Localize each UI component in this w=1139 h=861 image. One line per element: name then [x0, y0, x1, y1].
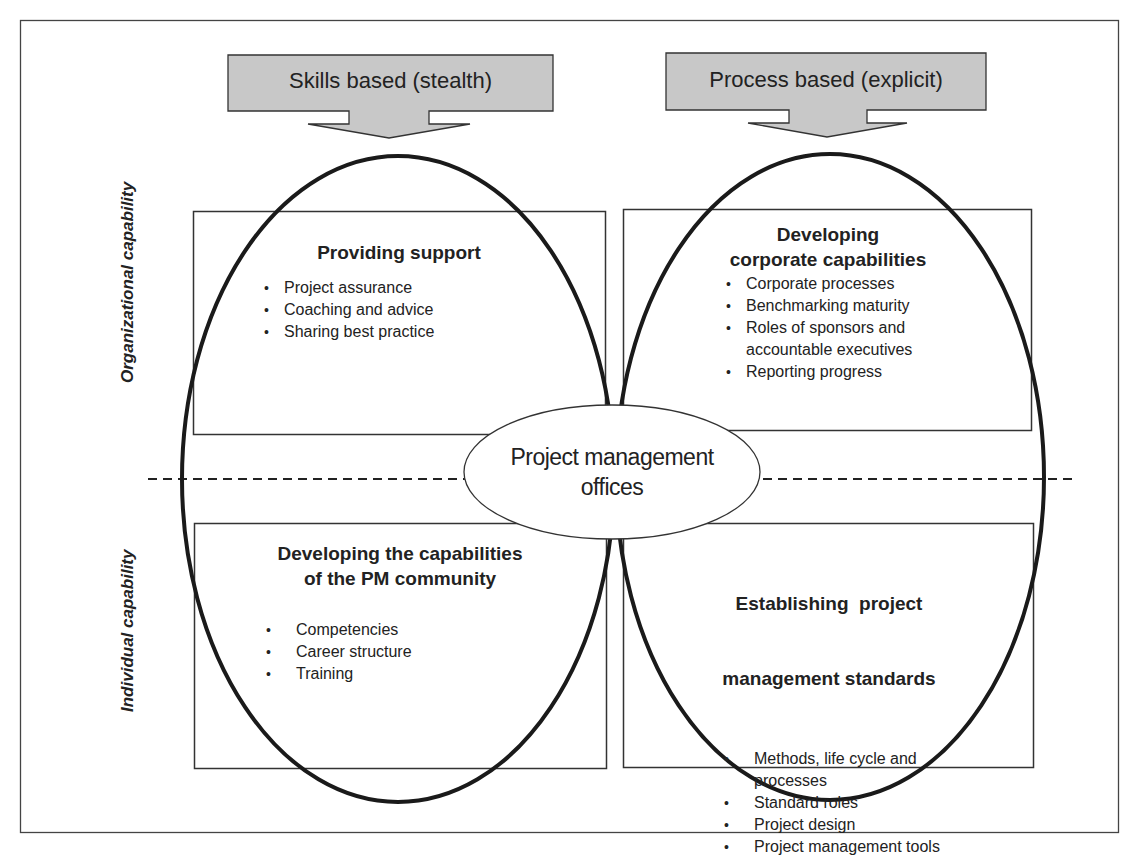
list-item: Sharing best practice	[262, 321, 604, 343]
individual-capability-label: Individual capability	[118, 550, 138, 712]
list-item: Coaching and advice	[262, 299, 604, 321]
quadrant-items: Corporate processes Benchmarking maturit…	[724, 273, 974, 383]
list-item: Project assurance	[262, 277, 604, 299]
quadrant-title-line: corporate capabilities	[624, 247, 1032, 272]
quadrant-title: Establishing project management standard…	[624, 541, 1034, 741]
quadrant-title-line: Developing	[624, 222, 1032, 247]
quadrant-corporate-capabilities: Developing corporate capabilities Corpor…	[624, 222, 1032, 383]
process-arrow-shape	[666, 53, 986, 137]
list-item: Competencies	[262, 619, 606, 641]
list-item: Project management tools	[720, 836, 965, 858]
list-item: Methods, life cycle and processes	[720, 748, 965, 792]
skills-based-label: Skills based (stealth)	[228, 68, 553, 94]
quadrant-title: Providing support	[194, 240, 604, 265]
process-based-label: Process based (explicit)	[666, 67, 986, 93]
pmo-label-line: offices	[464, 472, 760, 502]
list-item: Standard roles	[720, 792, 965, 814]
quadrant-items: Competencies Career structure Training	[262, 619, 606, 685]
quadrant-title-line: management standards	[624, 666, 1034, 691]
quadrant-title-line: Establishing project	[624, 591, 1034, 616]
list-item: Reporting progress	[724, 361, 974, 383]
quadrant-title-line: Developing the capabilities	[194, 541, 606, 566]
quadrant-items: Project assurance Coaching and advice Sh…	[262, 277, 604, 343]
quadrant-pm-standards: Establishing project management standard…	[624, 541, 1034, 858]
quadrant-items: Methods, life cycle and processes Standa…	[720, 748, 965, 858]
list-item: Project design	[720, 814, 965, 836]
diagram-canvas: Skills based (stealth) Process based (ex…	[0, 0, 1139, 861]
quadrant-providing-support: Providing support Project assurance Coac…	[194, 240, 604, 343]
pmo-label-line: Project management	[464, 442, 760, 472]
list-item: Career structure	[262, 641, 606, 663]
pmo-label: Project management offices	[464, 442, 760, 502]
quadrant-pm-community: Developing the capabilities of the PM co…	[194, 541, 606, 685]
list-item: Corporate processes	[724, 273, 974, 295]
organizational-capability-label: Organizational capability	[118, 182, 138, 383]
list-item: Benchmarking maturity	[724, 295, 974, 317]
quadrant-title: Developing the capabilities of the PM co…	[194, 541, 606, 591]
quadrant-title: Developing corporate capabilities	[624, 222, 1032, 272]
quadrant-title-line: of the PM community	[194, 566, 606, 591]
list-item: Roles of sponsors and accountable execut…	[724, 317, 974, 361]
list-item: Training	[262, 663, 606, 685]
